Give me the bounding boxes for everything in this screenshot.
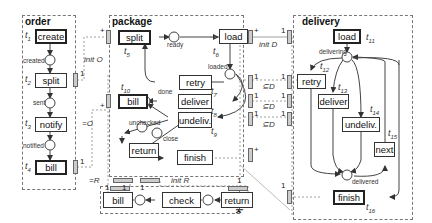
back-check-transition[interactable]: check [162,192,201,208]
back-return-transition[interactable]: return [221,192,253,208]
t16-label: t16 [366,202,375,214]
order-notify-transition[interactable]: notify [35,117,67,132]
t11-label: t11 [366,32,375,44]
channel-sub-d-2: ⊆D [262,102,275,111]
package-load-port [248,30,253,44]
place-notified-label: notified [23,142,44,149]
t1-label: t1 [25,30,31,42]
channel-eq-r: =R [89,176,99,185]
package-retry-port [248,75,253,89]
package-title: package [112,16,152,27]
order-bill-transition[interactable]: bill [35,160,67,175]
package-finish-transition[interactable]: finish [177,150,213,165]
t6-label: t6 [213,46,219,58]
delivery-load-transition[interactable]: load [333,29,361,44]
t4-label: t4 [25,161,31,173]
proclet-diagram: order package delivery back create t1 sp… [0,0,432,223]
place-done-label: done [158,88,172,95]
channel-sub-d-1: ⊆D [262,82,275,91]
place-ready-label: ready [167,41,183,48]
t13-label: t13 [338,82,347,94]
package-deliver-transition[interactable]: deliver [178,94,212,109]
t14-label: t14 [370,104,379,116]
card-one-order-split: 1 [80,69,84,78]
delivery-deliver-port [287,94,292,108]
delivery-next-transition[interactable]: next [374,142,395,157]
t15-label: t15 [388,128,397,140]
card-one-return-1: 1 [122,183,126,192]
t2-label: t2 [25,74,31,86]
order-bill-port [73,160,78,174]
place-sent-label: sent [33,99,45,106]
t5-label: t5 [124,46,130,58]
card-one-delivery-load: 1 [281,26,285,35]
place-loaded-label: loaded [208,63,228,70]
package-split-transition[interactable]: split [118,30,151,45]
order-title: order [25,16,51,27]
package-undeliv-transition[interactable]: undeliv. [178,112,212,128]
delivery-deliver-transition[interactable]: deliver [318,94,349,109]
channel-init-r: init R [171,176,189,185]
card-one-delivery-undeliv: 1 [281,109,285,118]
back-bill-port [110,186,130,191]
package-return-transition[interactable]: return [129,143,159,158]
channel-init-d: init D [259,40,277,49]
delivery-undeliv-transition[interactable]: undeliv. [342,117,380,132]
package-undeliv-port [248,112,253,126]
package-finish-port [248,148,253,162]
t3-label: t3 [25,118,31,130]
place-delivering-label: delivering [319,48,347,55]
card-one-package-deliver: 1 [254,91,258,100]
t9-label: t9 [211,126,217,138]
card-one-return-2: 1 [140,183,144,192]
package-load-transition[interactable]: load [219,29,248,44]
delivery-retry-port [287,75,292,89]
card-one-package-retry: 1 [254,72,258,81]
card-one-back-return: 1 [237,176,241,185]
package-split-port [106,30,111,44]
card-one-delivery-finish: 1 [281,181,285,190]
card-plus-package-split: + [100,26,105,35]
order-split-transition[interactable]: split [35,73,67,88]
delivery-retry-transition[interactable]: retry [297,74,326,89]
order-create-transition[interactable]: create [35,29,67,44]
card-plus-package-bill: + [100,101,105,110]
delivery-title: delivery [302,16,340,27]
delivery-load-port [287,30,292,44]
card-one-package-undeliv: 1 [254,109,258,118]
card-one-delivery-deliver: 1 [281,91,285,100]
delivery-undeliv-port [287,112,292,126]
delivery-finish-transition[interactable]: finish [333,190,365,205]
channel-sub-d-3: ⊆D [262,120,275,129]
t12-label: t12 [320,61,329,73]
back-return-port [228,186,248,191]
package-deliver-port [248,94,253,108]
place-delivered-label: delivered [352,178,378,185]
delivery-finish-port [287,190,292,204]
order-split-port [73,73,78,87]
card-one-delivery-retry: 1 [281,72,285,81]
package-retry-transition[interactable]: retry [179,75,212,90]
channel-init-o: init O [84,55,103,64]
t10-label: t10 [121,82,130,94]
channel-eq-o: =O [82,119,93,128]
package-bill-port [106,94,111,108]
place-created-label: created [23,57,45,64]
card-plus-package-finish: + [254,145,259,154]
card-one-order-bill: 1 [80,157,84,166]
card-one-back-bill: 1 [105,183,109,192]
card-plus-package-load: + [254,26,259,35]
back-bill-transition[interactable]: bill [103,192,133,208]
place-unchecked-label: unchecked [129,119,160,126]
package-bill-transition[interactable]: bill [118,94,148,109]
place-close-label: close [163,135,178,142]
